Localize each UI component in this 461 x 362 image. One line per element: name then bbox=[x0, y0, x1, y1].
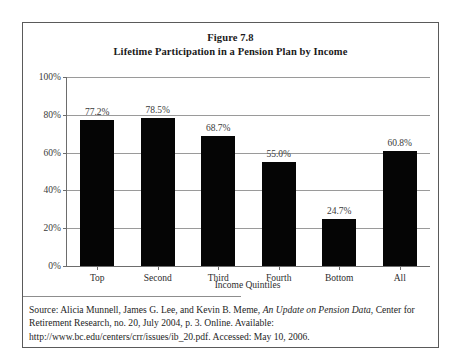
x-axis-tick bbox=[218, 266, 219, 270]
bar-group: 55.0%Fourth bbox=[249, 77, 310, 266]
plot-area: 0%20%40%60%80%100%77.2%Top78.5%Second68.… bbox=[66, 77, 430, 267]
figure-caption: Lifetime Participation in a Pension Plan… bbox=[23, 45, 438, 59]
x-axis-tick bbox=[400, 266, 401, 270]
bar bbox=[383, 151, 417, 266]
bar-value-label: 55.0% bbox=[266, 149, 291, 159]
bar bbox=[262, 162, 296, 266]
bar bbox=[322, 219, 356, 266]
bar-group: 78.5%Second bbox=[128, 77, 189, 266]
bar-value-label: 24.7% bbox=[327, 206, 352, 216]
figure-title: Figure 7.8 Lifetime Participation in a P… bbox=[23, 31, 438, 58]
y-axis-tick bbox=[63, 266, 67, 267]
y-axis-tick-label: 100% bbox=[39, 72, 61, 82]
source-note: Source: Alicia Munnell, James G. Lee, an… bbox=[29, 303, 433, 343]
y-axis-tick-label: 60% bbox=[44, 148, 61, 158]
bar bbox=[201, 136, 235, 266]
figure-number: Figure 7.8 bbox=[23, 31, 438, 45]
source-prefix: Source: Alicia Munnell, James G. Lee, an… bbox=[29, 304, 263, 315]
bar-value-label: 78.5% bbox=[145, 105, 170, 115]
y-axis-tick-label: 80% bbox=[44, 110, 61, 120]
y-axis-tick-label: 20% bbox=[44, 223, 61, 233]
bar-group: 68.7%Third bbox=[188, 77, 249, 266]
bar-value-label: 77.2% bbox=[85, 107, 110, 117]
y-axis-tick-label: 40% bbox=[44, 185, 61, 195]
bar-value-label: 60.8% bbox=[387, 138, 412, 148]
x-axis-tick bbox=[158, 266, 159, 270]
bar-value-label: 68.7% bbox=[206, 123, 231, 133]
bar bbox=[141, 118, 175, 266]
figure-container: Figure 7.8 Lifetime Participation in a P… bbox=[22, 22, 439, 348]
x-axis-tick bbox=[339, 266, 340, 270]
source-publication-title: An Update on Pension Data bbox=[263, 304, 371, 315]
bar bbox=[80, 120, 114, 266]
x-axis-tick bbox=[279, 266, 280, 270]
bar-group: 60.8%All bbox=[370, 77, 431, 266]
bar-chart: 0%20%40%60%80%100%77.2%Top78.5%Second68.… bbox=[23, 63, 440, 298]
section-divider bbox=[23, 296, 241, 297]
bar-group: 24.7%Bottom bbox=[309, 77, 370, 266]
x-axis-title: Income Quintiles bbox=[66, 280, 429, 290]
x-axis-tick bbox=[97, 266, 98, 270]
bar-group: 77.2%Top bbox=[67, 77, 128, 266]
y-axis-tick-label: 0% bbox=[48, 261, 61, 271]
